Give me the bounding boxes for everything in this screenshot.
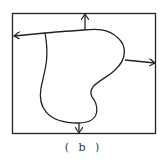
diagram-canvas xyxy=(0,0,167,162)
closed-region-curve xyxy=(40,29,124,123)
arrow-right xyxy=(125,60,155,63)
left-boundary-line xyxy=(14,33,45,36)
outer-rectangle xyxy=(13,14,156,134)
figure-caption: ( b ) xyxy=(0,141,167,154)
